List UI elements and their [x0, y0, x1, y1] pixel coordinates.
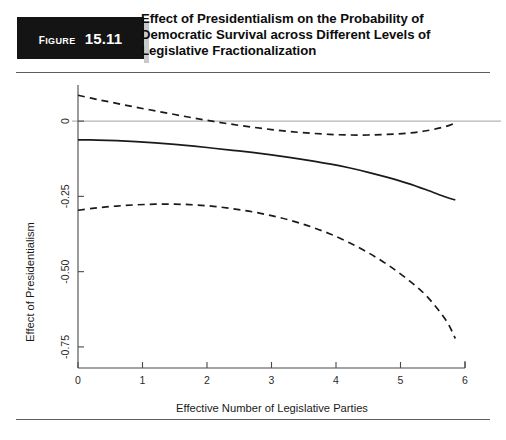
y-tick-label: -0.50	[59, 260, 71, 284]
series-line-dashed	[78, 95, 455, 135]
figure-title-line-1: Effect of Presidentialism on the Probabi…	[141, 11, 493, 27]
figure-title-line-2: Democratic Survival across Different Lev…	[141, 27, 493, 43]
figure-number-badge: Figure 15.11	[17, 17, 144, 59]
x-tick-label: 4	[333, 374, 339, 386]
y-axis-tick-labels: 0-0.25-0.50-0.75	[59, 118, 71, 359]
x-tick-label: 2	[204, 374, 210, 386]
x-axis-tick-labels: 0123456	[75, 374, 468, 386]
x-tick-label: 3	[269, 374, 275, 386]
figure-number-label: 15.11	[85, 30, 123, 47]
chart-axes	[78, 85, 465, 368]
y-axis-title: Effect of Presidentialism	[24, 222, 36, 342]
footer-divider-rule	[16, 419, 490, 420]
y-tick-label: 0	[59, 118, 71, 124]
chart-tick-marks	[78, 121, 465, 368]
x-tick-label: 5	[398, 374, 404, 386]
chart-series-lines	[78, 95, 455, 338]
figure-word-label: Figure	[39, 31, 76, 47]
x-tick-label: 1	[140, 374, 146, 386]
chart-plot-area: 0123456 0-0.25-0.50-0.75 Effective Numbe…	[0, 74, 506, 420]
line-chart: 0123456 0-0.25-0.50-0.75 Effective Numbe…	[0, 74, 506, 420]
series-line-dashed	[78, 204, 455, 338]
figure-badge-inner: Figure 15.11	[39, 30, 123, 47]
x-tick-label: 6	[462, 374, 468, 386]
figure-container: Figure 15.11 Effect of Presidentialism o…	[0, 0, 506, 440]
figure-header: Figure 15.11 Effect of Presidentialism o…	[0, 0, 506, 74]
x-tick-label: 0	[75, 374, 81, 386]
series-line-solid	[78, 140, 455, 200]
header-divider-rule	[16, 72, 490, 73]
figure-title-line-3: Legislative Fractionalization	[141, 43, 493, 59]
x-axis-title: Effective Number of Legislative Parties	[176, 402, 368, 414]
y-tick-label: -0.25	[59, 184, 71, 208]
y-tick-label: -0.75	[59, 335, 71, 359]
figure-title: Effect of Presidentialism on the Probabi…	[141, 11, 493, 60]
